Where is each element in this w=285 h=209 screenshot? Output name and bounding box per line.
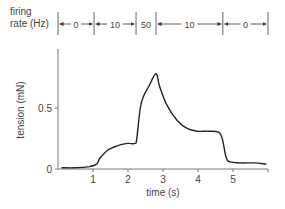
axes: 1234500.5 [38, 49, 268, 185]
firing-rate-label-line1: firing [10, 6, 32, 17]
y-tick-label: 0.5 [38, 103, 52, 114]
stimulus-segment-label: 0 [243, 20, 248, 30]
tension-chart: 01050100 1234500.5 firing rate (Hz) tens… [0, 0, 285, 209]
stimulus-segment-label: 10 [110, 20, 120, 30]
x-axis-label: time (s) [146, 187, 179, 198]
stimulus-segment-label: 50 [141, 20, 151, 30]
x-tick-label: 5 [230, 174, 236, 185]
x-tick-label: 3 [160, 174, 166, 185]
x-tick-label: 4 [195, 174, 201, 185]
x-tick-label: 1 [90, 174, 96, 185]
tension-line [62, 74, 267, 168]
firing-rate-label-line2: rate (Hz) [10, 18, 49, 29]
stimulus-segment-label: 10 [184, 20, 194, 30]
tension-curve [62, 74, 267, 168]
stimulus-segment-label: 0 [74, 20, 79, 30]
x-tick-label: 2 [125, 174, 131, 185]
y-axis-label: tension (mN) [15, 81, 26, 138]
firing-rate-bar: 01050100 [58, 12, 268, 35]
y-tick-label: 0 [46, 164, 52, 175]
